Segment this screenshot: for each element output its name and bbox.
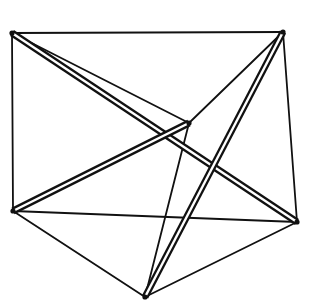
tensegrity-figure — [0, 0, 315, 308]
node-D — [10, 208, 15, 213]
cable-A-D — [12, 33, 13, 211]
strut-B-F — [145, 32, 283, 297]
cable-A-B — [12, 32, 283, 33]
cable-D-E — [13, 211, 297, 222]
node-C — [186, 120, 191, 125]
node-A — [9, 30, 14, 35]
node-B — [280, 29, 285, 34]
cable-B-C — [189, 32, 283, 123]
node-E — [294, 219, 299, 224]
tension-cables — [12, 32, 297, 297]
tensegrity-diagram — [0, 0, 315, 308]
strut-D-C — [13, 123, 189, 211]
cable-D-F — [13, 211, 145, 297]
node-F — [142, 294, 147, 299]
cable-B-E — [283, 32, 297, 222]
